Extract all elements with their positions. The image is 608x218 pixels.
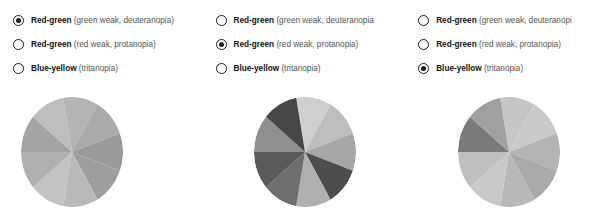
- radio-option-3[interactable]: Blue-yellow (tritanopia): [418, 57, 608, 79]
- radio-option-3[interactable]: Blue-yellow (tritanopia): [216, 57, 406, 79]
- deficiency-type: Blue-yellow: [436, 64, 482, 73]
- deficiency-type: Blue-yellow: [234, 64, 280, 73]
- radio-group: Red-green (green weak, deuteranopiaRed-g…: [203, 0, 406, 79]
- deuteranopia-panel: Red-green (green weak, deuteranopia)Red-…: [0, 0, 203, 218]
- radio-unselected-icon[interactable]: [13, 63, 24, 74]
- deficiency-detail: (green weak, deuteranopia: [276, 16, 373, 25]
- radio-unselected-icon[interactable]: [13, 39, 24, 50]
- radio-option-2[interactable]: Red-green (red weak, protanopia): [216, 33, 406, 55]
- pie-chart-deuteranopia: [21, 97, 123, 207]
- protanopia-panel: Red-green (green weak, deuteranopiaRed-g…: [203, 0, 406, 218]
- radio-option-1[interactable]: Red-green (green weak, deuteranopia: [216, 9, 406, 31]
- radio-option-label: Red-green (red weak, protanopia): [436, 39, 561, 50]
- radio-option-3[interactable]: Blue-yellow (tritanopia): [13, 57, 203, 79]
- deficiency-type: Red-green: [234, 16, 275, 25]
- radio-option-label: Blue-yellow (tritanopia): [436, 63, 523, 74]
- deficiency-detail: (tritanopia): [79, 64, 118, 73]
- deficiency-type: Red-green: [436, 40, 477, 49]
- radio-option-label: Blue-yellow (tritanopia): [234, 63, 321, 74]
- radio-option-2[interactable]: Red-green (red weak, protanopia): [13, 33, 203, 55]
- chart-area: [203, 86, 406, 218]
- deficiency-detail: (red weak, protanopia): [479, 40, 561, 49]
- pie-chart-tritanopia: [458, 97, 560, 207]
- deficiency-detail: (red weak, protanopia): [276, 40, 358, 49]
- pie-chart-protanopia: [254, 97, 356, 207]
- deficiency-type: Red-green: [31, 40, 72, 49]
- radio-group: Red-green (green weak, deuteranopia)Red-…: [0, 0, 203, 79]
- radio-option-label: Red-green (red weak, protanopia): [31, 39, 156, 50]
- radio-unselected-icon[interactable]: [418, 39, 429, 50]
- deficiency-type: Red-green: [234, 40, 275, 49]
- deficiency-detail: (green weak, deuteranopi: [479, 16, 572, 25]
- chart-area: [0, 86, 203, 218]
- deficiency-detail: (green weak, deuteranopia): [74, 16, 174, 25]
- deficiency-type: Red-green: [31, 16, 72, 25]
- radio-unselected-icon[interactable]: [216, 15, 227, 26]
- simulation-panels: Red-green (green weak, deuteranopia)Red-…: [0, 0, 608, 218]
- radio-option-2[interactable]: Red-green (red weak, protanopia): [418, 33, 608, 55]
- radio-selected-icon[interactable]: [13, 15, 24, 26]
- radio-option-label: Red-green (green weak, deuteranopi: [436, 15, 572, 26]
- radio-option-1[interactable]: Red-green (green weak, deuteranopi: [418, 9, 608, 31]
- radio-option-label: Red-green (green weak, deuteranopia): [31, 15, 174, 26]
- deficiency-detail: (red weak, protanopia): [74, 40, 156, 49]
- radio-selected-icon[interactable]: [418, 63, 429, 74]
- radio-group: Red-green (green weak, deuteranopiRed-gr…: [405, 0, 608, 79]
- radio-option-label: Red-green (green weak, deuteranopia: [234, 15, 374, 26]
- tritanopia-panel: Red-green (green weak, deuteranopiRed-gr…: [405, 0, 608, 218]
- deficiency-type: Blue-yellow: [31, 64, 77, 73]
- radio-unselected-icon[interactable]: [418, 15, 429, 26]
- radio-unselected-icon[interactable]: [216, 63, 227, 74]
- radio-option-label: Red-green (red weak, protanopia): [234, 39, 359, 50]
- deficiency-detail: (tritanopia): [484, 64, 523, 73]
- radio-option-label: Blue-yellow (tritanopia): [31, 63, 118, 74]
- radio-option-1[interactable]: Red-green (green weak, deuteranopia): [13, 9, 203, 31]
- deficiency-detail: (tritanopia): [281, 64, 320, 73]
- radio-selected-icon[interactable]: [216, 39, 227, 50]
- deficiency-type: Red-green: [436, 16, 477, 25]
- chart-area: [405, 86, 608, 218]
